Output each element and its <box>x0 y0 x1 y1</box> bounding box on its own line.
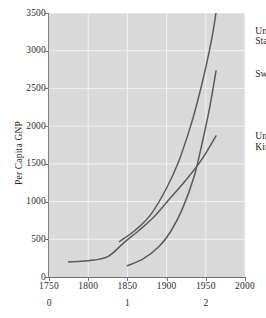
x-secondary-tick-label: 2 <box>186 298 226 309</box>
y-tick-mark <box>45 239 48 240</box>
y-tick-label: 0 <box>2 272 46 282</box>
y-tick-label: 2000 <box>2 121 46 131</box>
y-tick-label: 500 <box>2 234 46 244</box>
y-tick-mark <box>45 277 48 278</box>
series-label-united-kingdom: United Kingdom <box>255 131 266 152</box>
y-tick-mark <box>45 164 48 165</box>
plot-canvas <box>49 13 245 277</box>
x-tick-mark <box>206 278 207 281</box>
y-tick-mark <box>45 13 48 14</box>
x-tick-mark <box>88 278 89 281</box>
series-line <box>69 136 216 262</box>
x-tick-label: 1900 <box>147 281 187 292</box>
y-tick-label: 1500 <box>2 158 46 168</box>
y-axis-title: Per Capita GNP <box>14 108 24 198</box>
series-label-united-states: United States <box>255 26 266 47</box>
x-tick-mark <box>167 278 168 281</box>
x-tick-label: 1800 <box>68 281 108 292</box>
series-line <box>127 71 216 266</box>
chart-container: 0500100015002000250030003500 17501800185… <box>0 0 266 318</box>
x-secondary-tick-label: 0 <box>29 298 69 309</box>
plot-area <box>49 13 245 277</box>
y-tick-mark <box>45 51 48 52</box>
y-tick-label: 2500 <box>2 83 46 93</box>
y-axis-line <box>48 13 49 278</box>
y-tick-label: 3500 <box>2 8 46 18</box>
x-tick-label: 1950 <box>186 281 226 292</box>
x-tick-mark <box>127 278 128 281</box>
x-tick-label: 1750 <box>29 281 69 292</box>
x-axis-line <box>45 277 246 278</box>
x-secondary-tick-label: 1 <box>107 298 147 309</box>
y-tick-mark <box>45 126 48 127</box>
x-tick-mark <box>49 278 50 281</box>
x-tick-mark <box>245 278 246 281</box>
y-tick-label: 3000 <box>2 45 46 55</box>
series-label-sweden: Sweden <box>255 69 266 80</box>
x-tick-label: 2000 <box>225 281 265 292</box>
x-tick-label: 1850 <box>107 281 147 292</box>
y-tick-label: 1000 <box>2 196 46 206</box>
y-tick-mark <box>45 88 48 89</box>
gridlines-horizontal <box>49 13 245 239</box>
y-tick-mark <box>45 202 48 203</box>
series-line <box>120 13 216 242</box>
